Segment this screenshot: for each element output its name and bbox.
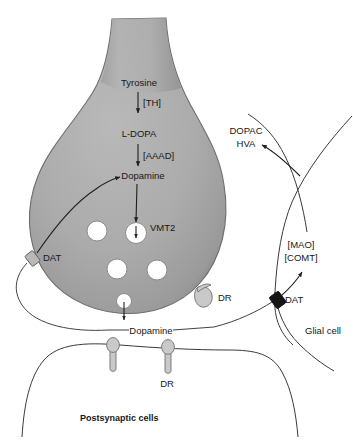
- label-comt-enzyme: [COMT]: [284, 252, 317, 263]
- label-dat-glial: DAT: [285, 294, 303, 305]
- label-aaad-enzyme: [AAAD]: [143, 150, 174, 161]
- label-dr-presynaptic: DR: [218, 292, 232, 303]
- label-vmt2: VMT2: [150, 222, 175, 233]
- caption-postsynaptic-cells: Postsynaptic cells: [80, 413, 159, 423]
- presynaptic-neuron: [29, 18, 226, 314]
- arrow-to-dopac-hva: [262, 145, 300, 176]
- postsynaptic-receptor-right: [162, 340, 175, 374]
- label-l-dopa: L-DOPA: [122, 128, 157, 139]
- cleft-line-right: [173, 327, 214, 330]
- glial-uptake-path: [214, 302, 272, 327]
- vesicle-upper-left: [87, 221, 107, 241]
- dopamine-synapse-figure: Tyrosine [TH] L-DOPA [AAAD] Dopamine VMT…: [0, 0, 353, 440]
- label-th-enzyme: [TH]: [143, 97, 161, 108]
- label-dopamine-synaptic: Dopamine: [129, 325, 172, 336]
- label-dat-presynaptic: DAT: [43, 252, 61, 263]
- postsynaptic-receptor-left: [107, 338, 120, 372]
- label-dopac: DOPAC: [229, 125, 262, 136]
- postsynaptic-membrane: [22, 344, 298, 437]
- presynaptic-autoreceptor: [195, 284, 213, 307]
- dr-receptor-right-head: [162, 340, 175, 355]
- label-tyrosine: Tyrosine: [121, 77, 157, 88]
- dr-receptor-left-head: [107, 338, 120, 353]
- label-glial-cell: Glial cell: [305, 325, 341, 336]
- figure-canvas: Tyrosine [TH] L-DOPA [AAAD] Dopamine VMT…: [0, 0, 353, 440]
- glial-membrane-outer: [275, 116, 352, 345]
- label-dopamine-cytosolic: Dopamine: [121, 170, 164, 181]
- vesicle-middle-right: [147, 260, 167, 280]
- label-mao-enzyme: [MAO]: [288, 239, 315, 250]
- arrow-glial-metabolism: [281, 272, 302, 296]
- label-hva: HVA: [237, 138, 256, 149]
- label-dr-postsynaptic: DR: [160, 378, 174, 389]
- vesicle-middle-left: [107, 259, 127, 279]
